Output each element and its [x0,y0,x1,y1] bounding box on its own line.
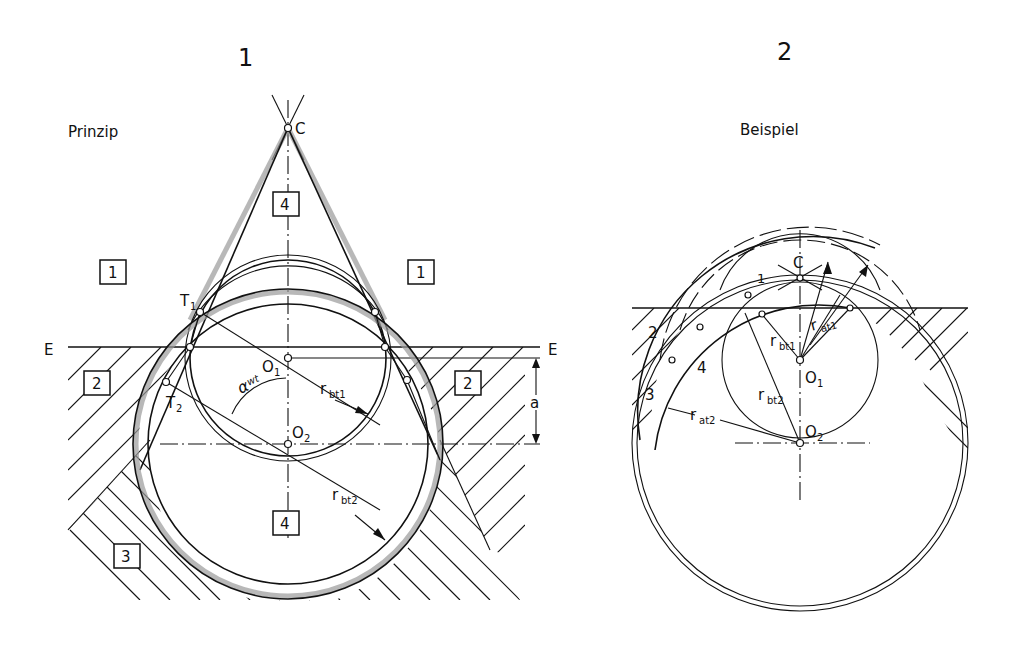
svg-text:1: 1 [274,367,280,378]
hatch-region-2-right [380,347,525,570]
point-O1 [285,355,292,362]
svg-text:4: 4 [280,196,290,214]
svg-text:O: O [805,369,817,387]
point-O2 [285,441,292,448]
region-box-2-right: 2 [455,371,481,395]
region-box-4-top: 4 [273,192,299,216]
svg-text:4: 4 [697,359,707,377]
svg-text:1: 1 [817,378,823,389]
point-T2 [163,379,170,386]
svg-text:2: 2 [817,432,823,443]
svg-text:bt2: bt2 [341,495,358,506]
svg-text:1: 1 [108,264,118,282]
svg-text:2: 2 [648,324,658,342]
panel-example: 2 Beispiel [632,38,968,611]
hatch-example-right [870,308,968,448]
svg-text:C: C [793,254,803,272]
panel-number-2: 2 [777,38,792,66]
svg-text:2: 2 [176,403,182,414]
svg-text:1: 1 [190,301,196,312]
svg-text:O: O [262,358,274,376]
svg-text:r: r [758,386,765,404]
point-O1-example [797,357,804,364]
panel-title-example: Beispiel [740,121,799,139]
region-box-1-left: 1 [100,260,126,284]
svg-text:O: O [805,423,817,441]
svg-text:C: C [295,120,305,138]
point-O2-example [797,440,804,447]
svg-text:bt1: bt1 [779,341,796,352]
svg-text:1: 1 [757,271,765,286]
svg-text:O: O [292,424,304,442]
svg-text:at1: at1 [820,319,839,334]
point-C-example [797,275,803,281]
svg-text:r: r [320,380,327,398]
svg-text:at2: at2 [699,415,715,426]
region-box-2-left: 2 [84,371,110,395]
gear-mesh-diagram: 1 Prinzip [0,0,1019,645]
svg-text:2: 2 [304,433,310,444]
svg-text:3: 3 [121,548,131,566]
svg-text:T: T [165,394,176,412]
region-box-4-bottom: 4 [273,511,299,535]
svg-text:r: r [808,315,819,334]
svg-text:bt2: bt2 [767,395,784,406]
svg-text:r: r [690,406,697,424]
svg-text:bt1: bt1 [329,389,346,400]
svg-text:4: 4 [280,515,290,533]
panel-number-1: 1 [238,44,253,72]
svg-text:2: 2 [92,375,102,393]
svg-text:r: r [770,332,777,350]
svg-text:T: T [179,292,190,310]
panel-title-principle: Prinzip [68,123,118,141]
svg-text:3: 3 [645,386,655,404]
region-box-1-right: 1 [408,260,434,284]
svg-text:1: 1 [416,264,426,282]
region-box-3: 3 [114,544,140,568]
svg-text:a: a [530,394,539,412]
point-T1 [197,309,204,316]
point-C [285,125,292,132]
label-E-right: E [548,341,557,359]
label-E-left: E [44,341,53,359]
svg-text:r: r [332,486,339,504]
svg-text:2: 2 [463,375,473,393]
panel-principle: 1 Prinzip [44,44,557,600]
